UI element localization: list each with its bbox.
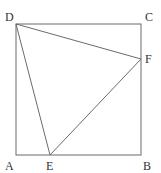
label-a: A bbox=[5, 159, 14, 173]
segment-de bbox=[16, 24, 50, 155]
label-b: B bbox=[143, 159, 151, 173]
segment-fd bbox=[16, 24, 141, 59]
label-d: D bbox=[5, 10, 14, 24]
segment-ef bbox=[50, 59, 141, 155]
label-e: E bbox=[46, 159, 53, 173]
label-f: F bbox=[145, 52, 152, 66]
geometry-diagram: D C F A E B bbox=[0, 0, 161, 173]
label-c: C bbox=[145, 10, 153, 24]
square-abcd bbox=[16, 24, 141, 155]
